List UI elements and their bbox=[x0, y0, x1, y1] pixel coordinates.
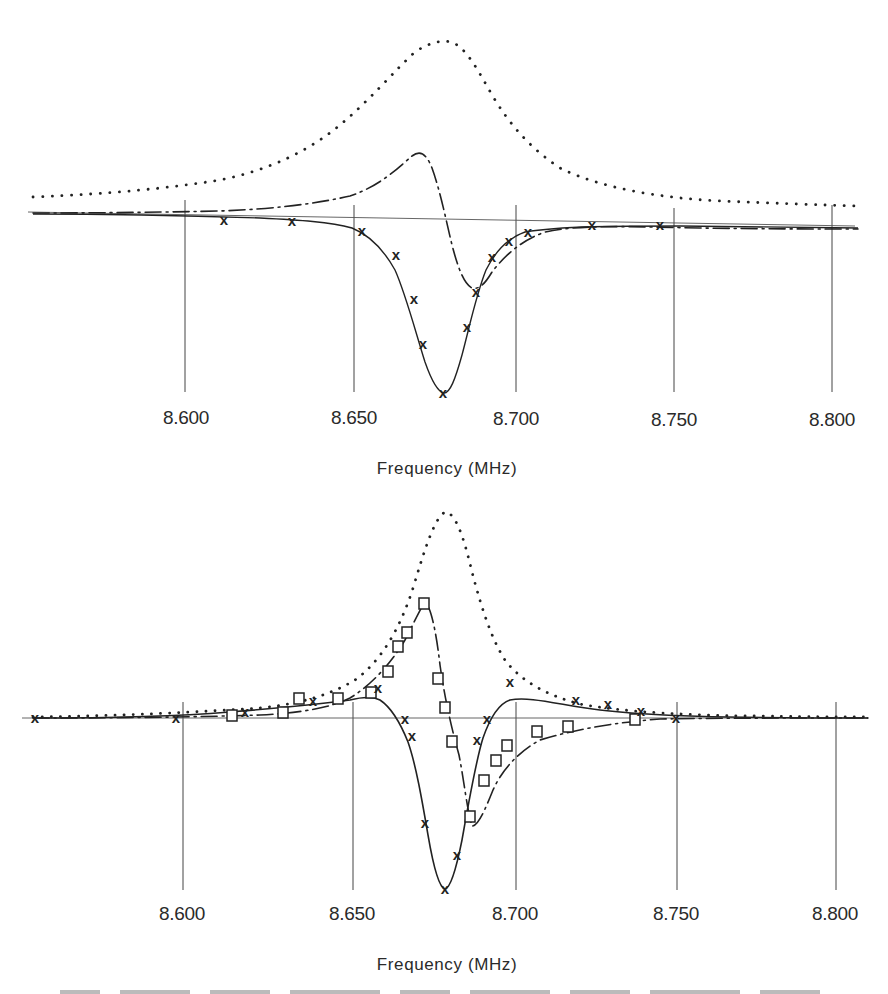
x-tick-label: 8.700 bbox=[492, 903, 538, 925]
x-marker: x bbox=[419, 335, 428, 352]
x-marker: x bbox=[31, 709, 40, 726]
bottom-x-markers: x x x x x x x x x x x x x x x x x bbox=[31, 673, 681, 897]
top-solid-curve bbox=[33, 214, 858, 393]
top-x-markers: x x x x x x x x x x x x x x bbox=[220, 211, 665, 401]
x-tick-label: 8.800 bbox=[812, 903, 858, 925]
square-marker bbox=[433, 673, 443, 684]
bottom-solid-curve bbox=[33, 697, 868, 889]
x-marker: x bbox=[672, 709, 681, 726]
x-marker: x bbox=[656, 216, 665, 233]
x-tick-label: 8.700 bbox=[493, 408, 539, 430]
square-marker bbox=[532, 726, 542, 737]
top-plot-area: x x x x x x x x x x x x x x bbox=[0, 0, 888, 490]
top-baseline bbox=[28, 212, 855, 226]
x-marker: x bbox=[505, 232, 514, 249]
bottom-plot-area: x x x x x x x x x x x x x x x x x bbox=[0, 490, 888, 980]
x-marker: x bbox=[473, 731, 482, 748]
x-marker: x bbox=[408, 727, 417, 744]
x-marker: x bbox=[463, 318, 472, 335]
x-axis-title: Frequency (MHz) bbox=[377, 955, 517, 975]
square-marker bbox=[227, 710, 237, 721]
x-tick-label: 8.600 bbox=[159, 903, 205, 925]
x-marker: x bbox=[374, 679, 383, 696]
x-marker: x bbox=[483, 710, 492, 727]
square-marker bbox=[393, 641, 403, 652]
square-marker bbox=[491, 755, 501, 766]
square-marker bbox=[383, 666, 393, 677]
square-marker bbox=[402, 627, 412, 638]
x-marker: x bbox=[604, 695, 613, 712]
square-marker bbox=[563, 721, 573, 732]
square-marker bbox=[447, 736, 457, 747]
x-tick-label: 8.750 bbox=[653, 903, 699, 925]
x-marker: x bbox=[439, 384, 448, 401]
x-marker: x bbox=[309, 692, 318, 709]
x-tick-label: 8.600 bbox=[163, 407, 209, 429]
x-marker: x bbox=[401, 710, 410, 727]
x-marker: x bbox=[441, 880, 450, 897]
x-marker: x bbox=[241, 703, 250, 720]
x-tick-label: 8.750 bbox=[651, 409, 697, 431]
x-marker: x bbox=[588, 216, 597, 233]
bottom-dash-dot-curve bbox=[33, 603, 868, 826]
square-marker bbox=[278, 707, 288, 718]
square-marker bbox=[465, 811, 475, 822]
square-marker bbox=[479, 775, 489, 786]
x-marker: x bbox=[524, 223, 533, 240]
x-marker: x bbox=[358, 222, 367, 239]
x-marker: x bbox=[220, 211, 229, 228]
bottom-gridlines bbox=[183, 702, 836, 890]
x-tick-label: 8.800 bbox=[809, 409, 855, 431]
x-marker: x bbox=[472, 283, 481, 300]
square-marker bbox=[333, 693, 343, 704]
x-marker: x bbox=[572, 691, 581, 708]
x-marker: x bbox=[410, 290, 419, 307]
bottom-chart: x x x x x x x x x x x x x x x x x 8.600 … bbox=[0, 490, 888, 980]
top-chart: x x x x x x x x x x x x x x 8.600 8.650 … bbox=[0, 0, 888, 490]
x-marker: x bbox=[392, 246, 401, 263]
bottom-square-markers bbox=[227, 598, 640, 822]
x-marker: x bbox=[172, 709, 181, 726]
x-marker: x bbox=[506, 673, 515, 690]
x-marker: x bbox=[488, 248, 497, 265]
x-marker: x bbox=[421, 814, 430, 831]
x-marker: x bbox=[453, 846, 462, 863]
bottom-dotted-curve bbox=[33, 512, 868, 717]
x-tick-label: 8.650 bbox=[331, 407, 377, 429]
x-tick-label: 8.650 bbox=[329, 903, 375, 925]
x-marker: x bbox=[637, 702, 646, 719]
top-dash-dot-curve bbox=[33, 153, 858, 288]
x-marker: x bbox=[288, 212, 297, 229]
square-marker bbox=[294, 693, 304, 704]
caption-fragment bbox=[60, 986, 840, 994]
x-axis-title: Frequency (MHz) bbox=[377, 459, 517, 479]
top-dotted-curve bbox=[33, 41, 858, 206]
square-marker bbox=[419, 598, 429, 609]
square-marker bbox=[440, 702, 450, 713]
square-marker bbox=[502, 740, 512, 751]
